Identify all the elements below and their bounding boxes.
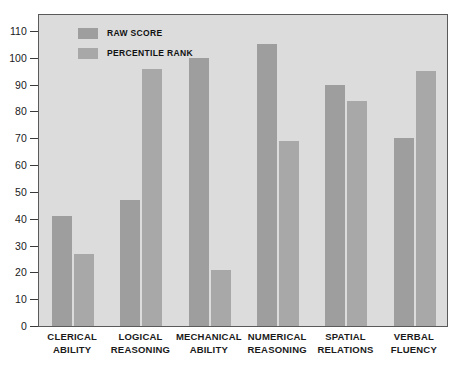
- legend-label: PERCENTILE RANK: [107, 48, 193, 58]
- x-axis-label-line: MECHANICAL: [175, 331, 243, 344]
- y-axis-tick-label: 70: [15, 132, 27, 144]
- x-axis-label-line: NUMERICAL: [243, 331, 311, 344]
- x-axis-category-label: VERBALFLUENCY: [380, 331, 448, 356]
- x-axis-label-line: LOGICAL: [106, 331, 174, 344]
- bar-group: [244, 15, 312, 326]
- x-axis-label-line: ABILITY: [38, 344, 106, 357]
- y-axis-tick-mark: [30, 111, 38, 112]
- legend-item: PERCENTILE RANK: [78, 45, 238, 61]
- legend-swatch: [78, 28, 98, 39]
- x-axis-label-line: VERBAL: [380, 331, 448, 344]
- legend-swatch: [78, 48, 98, 59]
- bar-chart: 0102030405060708090100110 CLERICALABILIT…: [0, 0, 462, 373]
- y-axis-tick-mark: [30, 165, 38, 166]
- y-axis-tick-label: 80: [15, 105, 27, 117]
- x-axis-label-line: ABILITY: [175, 344, 243, 357]
- y-axis-tick-mark: [30, 299, 38, 300]
- y-axis-tick-mark: [30, 85, 38, 86]
- y-axis-tick-label: 40: [15, 213, 27, 225]
- y-axis-tick-mark: [30, 31, 38, 32]
- bar-group: [381, 15, 449, 326]
- x-axis-label-line: SPATIAL: [311, 331, 379, 344]
- x-axis-category-label: NUMERICALREASONING: [243, 331, 311, 356]
- y-axis-tick-label: 50: [15, 186, 27, 198]
- bar-group: [312, 15, 380, 326]
- bar-raw-score: [120, 200, 140, 326]
- bar-percentile-rank: [279, 141, 299, 326]
- bar-percentile-rank: [74, 254, 94, 326]
- y-axis-tick-label: 110: [10, 25, 27, 37]
- y-axis-tick-label: 100: [9, 52, 27, 64]
- x-axis-label-line: REASONING: [106, 344, 174, 357]
- chart-legend: RAW SCOREPERCENTILE RANK: [78, 25, 238, 65]
- bar-percentile-rank: [142, 69, 162, 326]
- y-axis-tick-mark: [30, 272, 38, 273]
- bar-percentile-rank: [416, 71, 436, 326]
- y-axis-tick-mark: [30, 192, 38, 193]
- y-axis-tick-label: 90: [15, 79, 27, 91]
- y-axis-tick-label: 60: [15, 159, 27, 171]
- y-axis-tick-mark: [30, 219, 38, 220]
- x-axis-category-label: LOGICALREASONING: [106, 331, 174, 356]
- x-axis-category-label: MECHANICALABILITY: [175, 331, 243, 356]
- bar-percentile-rank: [211, 270, 231, 326]
- x-axis-label-line: FLUENCY: [380, 344, 448, 357]
- y-axis-tick-label: 30: [15, 240, 27, 252]
- y-axis-tick-label: 0: [21, 320, 27, 332]
- y-axis-tick-label: 10: [15, 293, 27, 305]
- bar-raw-score: [257, 44, 277, 326]
- x-axis-label-line: RELATIONS: [311, 344, 379, 357]
- x-axis-category-label: SPATIALRELATIONS: [311, 331, 379, 356]
- x-axis-labels: CLERICALABILITYLOGICALREASONINGMECHANICA…: [38, 331, 448, 371]
- y-axis-tick-mark: [30, 138, 38, 139]
- x-axis-label-line: REASONING: [243, 344, 311, 357]
- bar-raw-score: [325, 85, 345, 326]
- y-axis-tick-mark: [30, 246, 38, 247]
- bar-raw-score: [394, 138, 414, 326]
- y-axis: 0102030405060708090100110: [0, 0, 38, 340]
- bar-raw-score: [189, 58, 209, 326]
- legend-item: RAW SCORE: [78, 25, 238, 41]
- bar-percentile-rank: [347, 101, 367, 326]
- y-axis-tick-mark: [30, 58, 38, 59]
- x-axis-category-label: CLERICALABILITY: [38, 331, 106, 356]
- y-axis-tick-mark: [30, 326, 38, 327]
- y-axis-tick-label: 20: [15, 266, 27, 278]
- legend-label: RAW SCORE: [107, 28, 163, 38]
- x-axis-label-line: CLERICAL: [38, 331, 106, 344]
- bar-raw-score: [52, 216, 72, 326]
